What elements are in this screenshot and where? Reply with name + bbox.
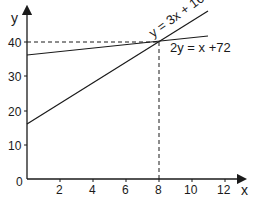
origin-label: 0 [16,175,23,189]
x-tick-label-2: 2 [56,183,63,197]
line-chart: 10 20 30 40 0 2 4 6 8 10 12 y x y = 3x +… [0,0,253,202]
x-tick-label-10: 10 [184,183,198,197]
y-tick-label-40: 40 [8,36,22,50]
series-label-line1: y = 3x + 16 [146,0,207,40]
y-tick-label-20: 20 [8,105,22,119]
series-label-line2: 2y = x +72 [170,40,231,55]
x-tick-label-12: 12 [217,183,231,197]
y-tick-label-10: 10 [8,139,22,153]
x-tick-label-4: 4 [89,183,96,197]
x-tick-label-8: 8 [155,183,162,197]
line-y-eq-3x-plus-16 [27,11,208,124]
x-axis-label: x [241,182,248,198]
y-axis-label: y [11,10,18,26]
x-tick-label-6: 6 [122,183,129,197]
y-tick-label-30: 30 [8,70,22,84]
